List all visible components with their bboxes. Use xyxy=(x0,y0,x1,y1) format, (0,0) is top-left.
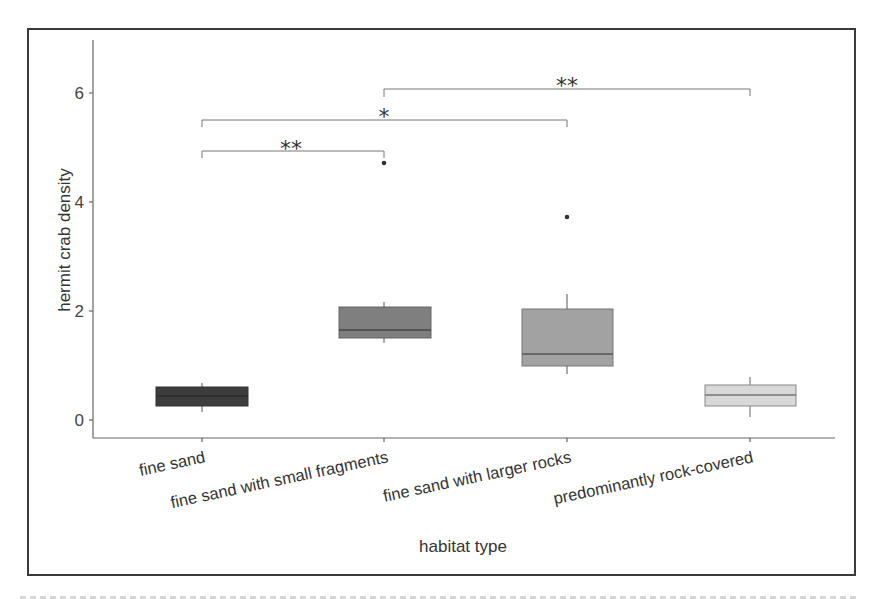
x-tick-label: fine sand with larger rocks xyxy=(381,447,572,504)
box-predominantly-rock-covered xyxy=(705,377,796,417)
outlier-point xyxy=(382,161,387,166)
significance-label-1: ** xyxy=(280,136,302,161)
boxplot-chart: 0 2 4 6 hermit crab density ** * xyxy=(0,0,884,599)
x-tick-label: predominantly rock-covered xyxy=(552,447,755,507)
y-axis-title: hermit crab density xyxy=(55,168,74,312)
x-axis-title: habitat type xyxy=(419,537,507,556)
outlier-point xyxy=(565,215,570,220)
y-tick-label: 4 xyxy=(75,193,84,212)
axes xyxy=(89,40,835,442)
clipped-caption-strip xyxy=(20,592,860,599)
x-tick-label: fine sand xyxy=(137,447,206,479)
box-fine-sand-larger-rocks xyxy=(522,215,613,374)
y-tick-label: 6 xyxy=(75,84,84,103)
y-tick-label: 2 xyxy=(75,302,84,321)
box xyxy=(522,309,613,366)
box-fine-sand-small-fragments xyxy=(339,161,431,343)
significance-label-3: ** xyxy=(556,73,578,98)
box xyxy=(339,307,431,338)
significance-label-2: * xyxy=(379,104,390,129)
y-tick-label: 0 xyxy=(75,411,84,430)
box-fine-sand xyxy=(156,383,248,412)
